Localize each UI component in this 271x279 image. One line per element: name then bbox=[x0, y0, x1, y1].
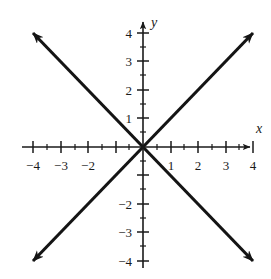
coordinate-graph-figure: −4 −3 −2 1 2 3 4 4 3 2 1 −2 −3 −4 x y bbox=[0, 0, 271, 279]
y-tick-label-2: 2 bbox=[126, 83, 133, 98]
x-tick-label-1: 1 bbox=[168, 158, 175, 173]
axis-names: x y bbox=[149, 15, 263, 136]
x-axis-label: x bbox=[255, 121, 263, 136]
y-tick-label--3: −3 bbox=[118, 225, 132, 240]
y-tick-label-3: 3 bbox=[126, 54, 133, 69]
cartesian-plot: −4 −3 −2 1 2 3 4 4 3 2 1 −2 −3 −4 x y bbox=[0, 0, 271, 279]
x-tick-label-2: 2 bbox=[195, 158, 202, 173]
x-tick-label--3: −3 bbox=[54, 158, 68, 173]
y-axis-label: y bbox=[149, 15, 158, 30]
y-tick-label--4: −4 bbox=[118, 254, 132, 269]
x-tick-label--4: −4 bbox=[26, 158, 40, 173]
x-tick-label--2: −2 bbox=[81, 158, 95, 173]
x-tick-label-3: 3 bbox=[223, 158, 230, 173]
y-tick-label-4: 4 bbox=[126, 26, 133, 41]
x-tick-label-4: 4 bbox=[250, 158, 257, 173]
line-y-equals-x-positive-ray bbox=[143, 33, 253, 147]
x-axis-tick-labels: −4 −3 −2 1 2 3 4 bbox=[26, 158, 257, 173]
y-tick-label--2: −2 bbox=[118, 197, 132, 212]
y-tick-label-1: 1 bbox=[126, 111, 133, 126]
